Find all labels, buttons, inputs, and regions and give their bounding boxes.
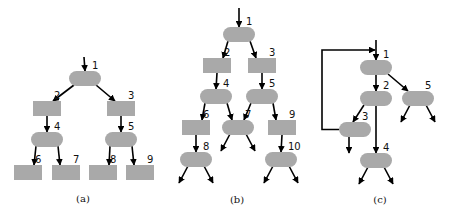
edge-b-8-exit — [179, 166, 188, 183]
caption-b: (b) — [230, 194, 244, 205]
edge-a-1-3 — [96, 85, 115, 101]
edge-b-1-3 — [250, 41, 256, 58]
node-b-5-pill — [246, 89, 278, 104]
edge-b-4-7 — [227, 103, 232, 120]
caption-c: (c) — [373, 194, 387, 205]
edge-b-7-exit — [221, 134, 230, 151]
node-label-b-9: 9 — [289, 109, 295, 120]
node-label-a-5: 5 — [128, 121, 134, 132]
node-b-10-pill — [265, 152, 297, 167]
node-label-a-9: 9 — [147, 154, 153, 165]
node-a-2-block — [33, 101, 61, 116]
edge-b-7-exit — [246, 134, 255, 151]
node-b-6-block — [182, 120, 210, 135]
node-a-5-pill — [105, 132, 137, 147]
node-a-1-pill — [69, 71, 101, 86]
edge-b-2-4 — [216, 73, 217, 89]
node-b-4-pill — [200, 89, 232, 104]
node-b-2-block — [203, 58, 231, 73]
node-b-9-block — [268, 120, 296, 135]
node-b-1-pill — [223, 27, 255, 42]
node-label-a-7: 7 — [73, 154, 79, 165]
node-label-b-3: 3 — [269, 47, 275, 58]
node-label-b-8: 8 — [203, 141, 209, 152]
node-a-9-block — [126, 165, 154, 180]
node-label-c-2: 2 — [383, 80, 389, 91]
node-a-6-block — [14, 165, 42, 180]
node-label-b-6: 6 — [203, 109, 209, 120]
edge-b-10-exit — [264, 166, 273, 183]
node-label-b-1: 1 — [246, 16, 252, 27]
node-label-c-4: 4 — [383, 142, 389, 153]
node-label-b-2: 2 — [224, 47, 230, 58]
edge-c-4-exit — [359, 167, 368, 184]
node-a-7-block — [52, 165, 80, 180]
edge-c-5-exit — [401, 105, 410, 122]
node-label-b-10: 10 — [288, 141, 301, 152]
edge-a-4-7 — [58, 146, 60, 165]
node-label-b-7: 7 — [245, 109, 251, 120]
node-label-c-1: 1 — [383, 49, 389, 60]
edge-c-5-exit — [426, 105, 435, 122]
edge-b-8-exit — [204, 166, 213, 183]
node-a-3-block — [107, 101, 135, 116]
node-a-4-pill — [31, 132, 63, 147]
node-label-a-3: 3 — [128, 90, 134, 101]
node-c-2-pill — [360, 91, 392, 106]
node-c-5-pill — [402, 91, 434, 106]
node-c-3-pill — [339, 122, 371, 137]
node-b-8-pill — [180, 152, 212, 167]
node-label-a-4: 4 — [54, 121, 60, 132]
node-b-7-pill — [222, 120, 254, 135]
node-label-a-6: 6 — [35, 154, 41, 165]
edge-b-10-exit — [289, 166, 298, 183]
node-label-c-5: 5 — [425, 80, 431, 91]
node-label-a-1: 1 — [92, 60, 98, 71]
edge-c-4-exit — [384, 167, 393, 184]
edge-b-9-10 — [281, 135, 282, 152]
edge-a-5-9 — [132, 146, 134, 165]
node-a-8-block — [89, 165, 117, 180]
node-label-b-5: 5 — [269, 78, 275, 89]
edge-b-5-9 — [273, 103, 276, 120]
node-label-a-8: 8 — [110, 154, 116, 165]
node-c-1-pill — [360, 60, 392, 75]
node-label-c-3: 3 — [362, 111, 368, 122]
edge-c-1-5 — [388, 74, 408, 91]
caption-a: (a) — [76, 193, 90, 204]
control-flow-diagrams: 123456789(a)12345679810(b)12534(c) — [0, 0, 454, 216]
node-label-b-4: 4 — [223, 78, 229, 89]
node-b-3-block — [248, 58, 276, 73]
node-c-4-pill — [360, 153, 392, 168]
node-label-a-2: 2 — [54, 90, 60, 101]
entry-arrow-a — [84, 57, 85, 71]
